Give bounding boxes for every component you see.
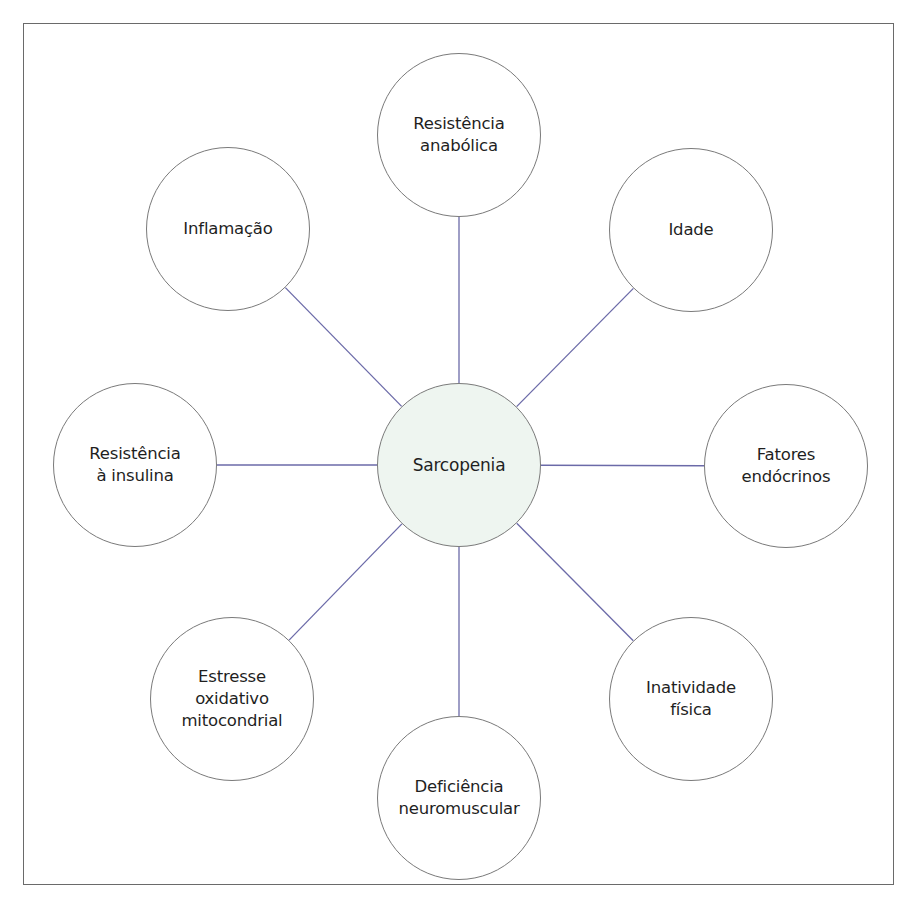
node-label: Inflamação [183,218,272,240]
node-deficiencia-neuromuscular: Deficiência neuromuscular [377,716,541,880]
connector-line [285,288,401,407]
node-label: Resistência anabólica [413,113,504,157]
node-label: Inatividade física [646,677,736,721]
node-fatores-endocrinos: Fatores endócrinos [704,384,868,548]
node-idade: Idade [609,148,773,312]
node-label-sarcopenia: Sarcopenia [413,454,506,476]
node-label: Resistência à insulina [89,443,180,487]
node-sarcopenia: Sarcopenia [377,383,541,547]
node-label: Deficiência neuromuscular [398,776,519,820]
node-inflamacao: Inflamação [146,147,310,311]
connector-line [289,524,402,640]
node-resistencia-anabolica: Resistência anabólica [377,53,541,217]
node-label: Fatores endócrinos [742,444,831,488]
connector-line [517,523,634,641]
node-estresse-oxidativo: Estresse oxidativo mitocondrial [150,617,314,781]
connector-line [517,288,634,406]
node-label: Estresse oxidativo mitocondrial [182,666,283,732]
node-inatividade-fisica: Inatividade física [609,617,773,781]
node-label: Idade [668,219,713,241]
node-resistencia-insulina: Resistência à insulina [53,383,217,547]
